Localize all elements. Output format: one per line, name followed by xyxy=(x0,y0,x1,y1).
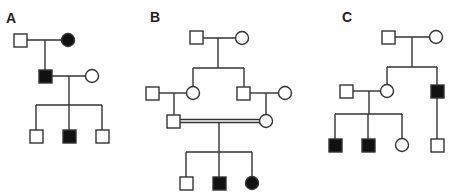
male-affected-symbol xyxy=(39,70,52,83)
female-unaffected-symbol xyxy=(381,85,394,98)
male-affected-symbol xyxy=(362,139,375,152)
female-affected-symbol xyxy=(246,177,259,190)
pedigree-c xyxy=(329,31,444,153)
male-affected-symbol xyxy=(213,177,226,190)
male-unaffected-symbol xyxy=(382,31,395,44)
male-unaffected-symbol xyxy=(180,177,193,190)
male-unaffected-symbol xyxy=(14,34,27,47)
female-unaffected-symbol xyxy=(236,32,249,45)
pedigree-a xyxy=(14,34,109,144)
male-affected-symbol xyxy=(329,139,342,152)
female-affected-symbol xyxy=(62,34,75,47)
female-unaffected-symbol xyxy=(279,87,292,100)
male-affected-symbol xyxy=(431,85,444,98)
male-unaffected-symbol xyxy=(431,139,444,152)
male-unaffected-symbol xyxy=(146,87,159,100)
female-unaffected-symbol xyxy=(187,87,200,100)
male-unaffected-symbol xyxy=(167,115,180,128)
male-unaffected-symbol xyxy=(340,85,353,98)
male-unaffected-symbol xyxy=(96,130,109,143)
male-unaffected-symbol xyxy=(190,31,203,44)
male-affected-symbol xyxy=(63,130,76,143)
pedigree-b xyxy=(146,31,292,190)
pedigree-svg xyxy=(0,0,452,195)
male-unaffected-symbol xyxy=(237,87,250,100)
female-unaffected-symbol xyxy=(86,70,99,83)
female-unaffected-symbol xyxy=(260,115,273,128)
male-unaffected-symbol xyxy=(30,130,43,143)
female-unaffected-symbol xyxy=(396,139,409,152)
pedigree-figure: A B C xyxy=(0,0,452,195)
female-unaffected-symbol xyxy=(430,31,443,44)
